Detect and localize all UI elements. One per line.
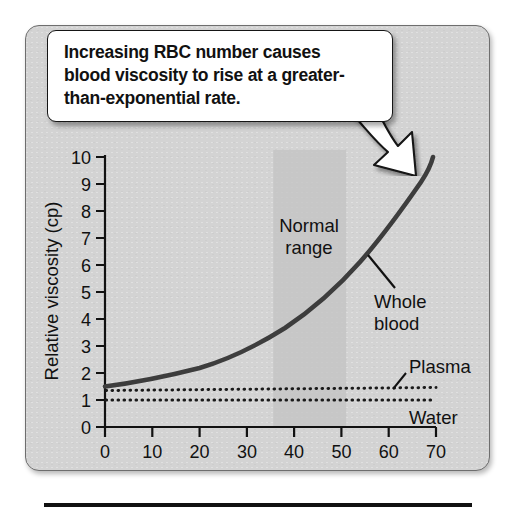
svg-text:Whole: Whole [374, 291, 426, 312]
x-axis-title: Hematocrit (%) [208, 470, 331, 491]
callout-box: Increasing RBC number causes blood visco… [47, 30, 393, 122]
svg-text:Plasma: Plasma [409, 356, 471, 377]
x-tick-label: 30 [237, 442, 257, 462]
x-tick-label: 10 [142, 442, 162, 462]
y-tick-label: 9 [81, 175, 91, 195]
svg-text:blood: blood [374, 313, 419, 334]
y-tick-label: 8 [81, 202, 91, 222]
svg-text:Normal: Normal [279, 215, 339, 236]
y-tick-label: 5 [81, 283, 91, 303]
x-tick-label: 70 [426, 442, 446, 462]
plasma-line [106, 388, 436, 391]
y-axis-title: Relative viscosity (cp) [41, 202, 62, 381]
normal-range-label: Normal range [279, 215, 339, 258]
y-axis-tick-labels: 10 9 8 7 6 5 4 3 2 1 0 [71, 148, 91, 438]
y-tick-label: 3 [81, 337, 91, 357]
bottom-divider [44, 503, 472, 507]
x-axis-ticks [105, 427, 436, 437]
whole-blood-leader-line [368, 255, 395, 288]
y-tick-label: 1 [81, 391, 91, 411]
callout-annotation: Increasing RBC number causes blood visco… [40, 26, 450, 176]
y-tick-label: 6 [81, 256, 91, 276]
whole-blood-curve [105, 157, 433, 387]
x-tick-label: 0 [100, 442, 110, 462]
whole-blood-label: Whole blood [368, 255, 426, 334]
x-tick-label: 50 [331, 442, 351, 462]
plasma-label: Plasma [393, 356, 471, 389]
water-label: Water [409, 407, 458, 428]
x-tick-label: 20 [190, 442, 210, 462]
svg-text:range: range [285, 237, 332, 258]
y-tick-label: 4 [81, 310, 91, 330]
y-tick-label: 0 [81, 418, 91, 438]
x-axis-tick-labels: 0 10 20 30 40 50 60 70 [100, 442, 446, 462]
callout-text: Increasing RBC number causes blood visco… [64, 41, 382, 109]
x-tick-label: 40 [284, 442, 304, 462]
y-tick-label: 2 [81, 364, 91, 384]
figure-container: 10 9 8 7 6 5 4 3 2 1 0 0 10 20 30 40 50 … [0, 0, 517, 527]
x-tick-label: 60 [379, 442, 399, 462]
y-tick-label: 7 [81, 229, 91, 249]
